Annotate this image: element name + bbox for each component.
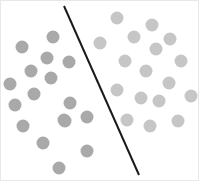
- data-point-left-group-1: [47, 31, 60, 44]
- data-point-left-group-5: [63, 56, 76, 69]
- data-point-left-group-2: [4, 78, 17, 91]
- data-point-left-group-6: [28, 88, 41, 101]
- data-point-left-group-4: [45, 72, 58, 85]
- data-point-right-group-11: [153, 95, 166, 108]
- data-point-right-group-5: [119, 55, 132, 68]
- data-point-left-group-10: [81, 111, 94, 124]
- data-point-right-group-3: [128, 31, 141, 44]
- data-point-right-group-6: [175, 55, 188, 68]
- data-point-right-group-2: [94, 37, 107, 50]
- data-point-left-group-8: [17, 120, 30, 133]
- data-point-left-group-3: [25, 65, 38, 78]
- data-point-left-group-15: [41, 52, 54, 65]
- data-point-left-group-7: [64, 97, 77, 110]
- data-point-left-group-11: [37, 137, 50, 150]
- data-point-right-group-4: [150, 43, 163, 56]
- data-point-right-group-9: [163, 77, 176, 90]
- data-point-right-group-1: [146, 19, 159, 32]
- data-point-right-group-0: [111, 12, 124, 25]
- data-point-right-group-8: [111, 84, 124, 97]
- data-point-right-group-15: [135, 92, 148, 105]
- data-point-right-group-13: [144, 120, 157, 133]
- data-point-right-group-16: [164, 33, 177, 46]
- dot-scatter-canvas: [1, 1, 199, 181]
- data-point-left-group-12: [53, 162, 66, 175]
- data-point-right-group-10: [185, 90, 198, 103]
- data-point-right-group-14: [121, 114, 134, 127]
- data-point-left-group-0: [16, 41, 29, 54]
- data-point-right-group-7: [140, 65, 153, 78]
- data-point-left-group-14: [58, 114, 71, 127]
- data-point-left-group-13: [81, 145, 94, 158]
- data-point-right-group-12: [172, 115, 185, 128]
- figure-container: [0, 0, 199, 181]
- data-point-left-group-16: [9, 99, 22, 112]
